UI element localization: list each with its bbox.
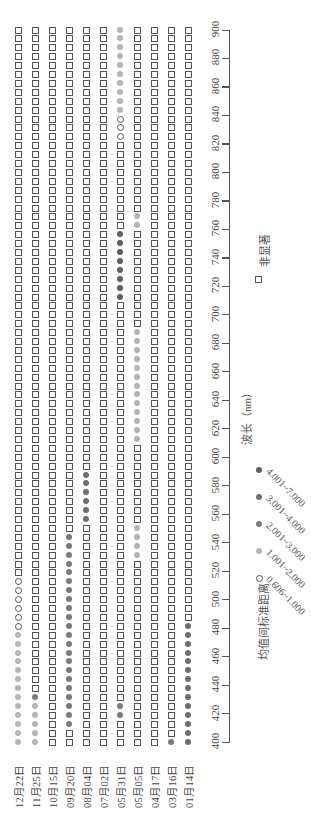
nonsig-square-marker (15, 169, 22, 176)
nonsig-square-marker (83, 391, 90, 398)
nonsig-square-marker (100, 552, 107, 559)
tick-label: 620 (209, 418, 221, 438)
tick-label: 840 (209, 104, 221, 124)
nonsig-square-marker (168, 240, 175, 247)
nonsig-square-marker (168, 44, 175, 51)
nonsig-square-marker (134, 721, 141, 728)
nonsig-square-marker (134, 44, 141, 51)
nonsig-square-marker (49, 329, 56, 336)
nonsig-square-marker (15, 365, 22, 372)
nonsig-square-marker (185, 427, 192, 434)
nonsig-square-marker (151, 552, 158, 559)
nonsig-square-marker (83, 276, 90, 283)
nonsig-square-marker (134, 632, 141, 639)
nonsig-square-marker (168, 400, 175, 407)
filled-circle-marker (83, 516, 89, 522)
tick-label: 880 (209, 47, 221, 67)
filled-circle-marker (134, 391, 140, 397)
filled-circle-marker (117, 712, 123, 718)
nonsig-square-marker (83, 365, 90, 372)
nonsig-square-marker (15, 285, 22, 292)
nonsig-square-marker (83, 187, 90, 194)
nonsig-square-marker (168, 231, 175, 238)
nonsig-square-marker (32, 98, 39, 105)
nonsig-square-marker (117, 213, 124, 220)
nonsig-square-marker (66, 329, 73, 336)
nonsig-square-marker (168, 329, 175, 336)
nonsig-square-marker (168, 89, 175, 96)
nonsig-square-marker (151, 53, 158, 60)
nonsig-square-marker (32, 427, 39, 434)
nonsig-square-marker (32, 320, 39, 327)
nonsig-square-marker (83, 703, 90, 710)
nonsig-square-marker (151, 222, 158, 229)
nonsig-square-marker (151, 418, 158, 425)
nonsig-square-marker (168, 623, 175, 630)
nonsig-square-marker (100, 721, 107, 728)
tick-label: 720 (209, 275, 221, 295)
tick-label: 700 (209, 304, 221, 324)
nonsig-square-marker (49, 587, 56, 594)
nonsig-square-marker (117, 365, 124, 372)
nonsig-square-marker (83, 294, 90, 301)
nonsig-square-marker (168, 53, 175, 60)
filled-circle-marker (185, 658, 191, 664)
nonsig-square-marker (32, 489, 39, 496)
nonsig-square-marker (83, 587, 90, 594)
nonsig-square-marker (151, 489, 158, 496)
nonsig-square-marker (66, 463, 73, 470)
nonsig-square-marker (151, 534, 158, 541)
nonsig-square-marker (15, 302, 22, 309)
nonsig-square-marker (185, 507, 192, 514)
nonsig-square-marker (117, 436, 124, 443)
nonsig-square-marker (117, 694, 124, 701)
nonsig-square-marker (100, 267, 107, 274)
filled-circle-marker (117, 231, 123, 237)
nonsig-square-marker (66, 89, 73, 96)
nonsig-square-marker (15, 320, 22, 327)
nonsig-square-marker (185, 151, 192, 158)
nonsig-square-marker (15, 240, 22, 247)
nonsig-square-marker (134, 578, 141, 585)
nonsig-square-marker (32, 569, 39, 576)
nonsig-square-marker (66, 730, 73, 737)
nonsig-square-marker (49, 596, 56, 603)
nonsig-square-marker (134, 294, 141, 301)
nonsig-square-marker (83, 71, 90, 78)
nonsig-square-marker (15, 427, 22, 434)
nonsig-square-marker (100, 739, 107, 746)
nonsig-square-marker (49, 98, 56, 105)
nonsig-square-marker (66, 116, 73, 123)
nonsig-square-marker (151, 712, 158, 719)
nonsig-square-marker (32, 596, 39, 603)
nonsig-square-marker (15, 383, 22, 390)
nonsig-square-marker (83, 53, 90, 60)
nonsig-square-marker (83, 409, 90, 416)
filled-circle-marker (83, 498, 89, 504)
nonsig-square-marker (168, 205, 175, 212)
nonsig-square-marker (83, 552, 90, 559)
nonsig-square-marker (83, 400, 90, 407)
filled-circle-marker (15, 712, 21, 718)
nonsig-square-marker (100, 285, 107, 292)
filled-circle-marker (66, 578, 72, 584)
nonsig-square-marker (32, 374, 39, 381)
date-label: 11月25日 (28, 766, 43, 808)
nonsig-square-marker (151, 694, 158, 701)
open-circle-marker (117, 133, 124, 140)
nonsig-square-marker (15, 418, 22, 425)
nonsig-square-marker (134, 276, 141, 283)
nonsig-square-marker (117, 658, 124, 665)
nonsig-square-marker (185, 561, 192, 568)
nonsig-square-marker (168, 391, 175, 398)
nonsig-square-marker (32, 35, 39, 42)
nonsig-square-marker (117, 578, 124, 585)
nonsig-square-marker (185, 133, 192, 140)
nonsig-square-marker (32, 587, 39, 594)
nonsig-square-marker (49, 667, 56, 674)
nonsig-square-marker (134, 454, 141, 461)
tick-label: 760 (209, 218, 221, 238)
nonsig-square-marker (83, 196, 90, 203)
nonsig-square-marker (66, 294, 73, 301)
nonsig-square-marker (185, 35, 192, 42)
